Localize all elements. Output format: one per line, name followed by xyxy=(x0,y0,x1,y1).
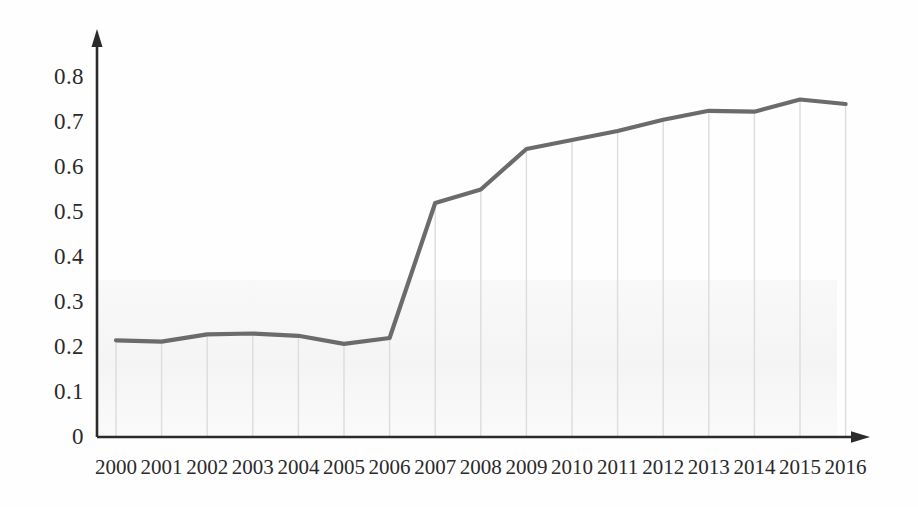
x-tick-label: 2015 xyxy=(775,457,825,478)
x-tick-label: 2005 xyxy=(319,457,369,478)
x-tick-label: 2003 xyxy=(228,457,278,478)
y-tick-label: 0.6 xyxy=(22,155,84,178)
x-tick-label: 2006 xyxy=(365,457,415,478)
x-tick-label: 2014 xyxy=(729,457,779,478)
x-tick-label: 2009 xyxy=(501,457,551,478)
x-tick-label: 2013 xyxy=(684,457,734,478)
y-tick-label: 0 xyxy=(22,425,84,448)
x-tick-label: 2016 xyxy=(821,457,871,478)
x-tick-label: 2000 xyxy=(91,457,141,478)
y-tick-label: 0.8 xyxy=(22,65,84,88)
line-chart-figure: 00.10.20.30.40.50.60.70.8 20002001200220… xyxy=(0,0,918,507)
vertical-gridlines xyxy=(116,102,846,437)
y-axis xyxy=(92,29,103,437)
x-tick-label: 2012 xyxy=(638,457,688,478)
y-tick-label: 0.7 xyxy=(22,110,84,133)
chart-plot-svg xyxy=(0,0,918,507)
x-tick-label: 2011 xyxy=(593,457,643,478)
x-tick-label: 2008 xyxy=(456,457,506,478)
x-tick-label: 2004 xyxy=(273,457,323,478)
scan-shading xyxy=(97,280,837,437)
y-tick-label: 0.3 xyxy=(22,290,84,313)
y-tick-label: 0.1 xyxy=(22,380,84,403)
x-tick-label: 2002 xyxy=(182,457,232,478)
y-tick-label: 0.5 xyxy=(22,200,84,223)
x-tick-label: 2001 xyxy=(137,457,187,478)
x-tick-label: 2007 xyxy=(410,457,460,478)
y-tick-label: 0.2 xyxy=(22,335,84,358)
x-tick-label: 2010 xyxy=(547,457,597,478)
y-tick-label: 0.4 xyxy=(22,245,84,268)
